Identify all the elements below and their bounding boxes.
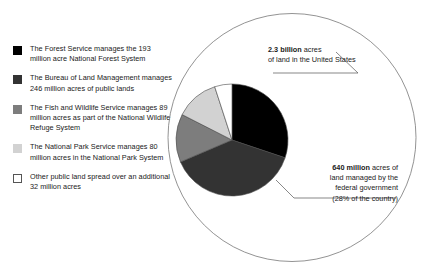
callout-federal-line4: (28% of the country): [332, 194, 398, 203]
pie-chart-graphic: [0, 0, 422, 274]
callout-federal-land: 640 million acres of land managed by the…: [286, 163, 398, 204]
pie-chart: 2.3 billion acres of land in the United …: [0, 0, 422, 274]
callout-total-value: 2.3 billion: [268, 45, 302, 54]
callout-federal-line2: land managed by the: [330, 173, 398, 182]
callout-federal-unit: acres of: [370, 163, 398, 172]
callout-total-land: 2.3 billion acres of land in the United …: [268, 45, 388, 65]
callout-total-unit: acres: [302, 45, 322, 54]
pie-slices: [176, 84, 288, 196]
callout-total-line2: of land in the United States: [268, 55, 356, 64]
callout-federal-value: 640 million: [332, 163, 370, 172]
callout-federal-line3: federal government: [335, 183, 398, 192]
